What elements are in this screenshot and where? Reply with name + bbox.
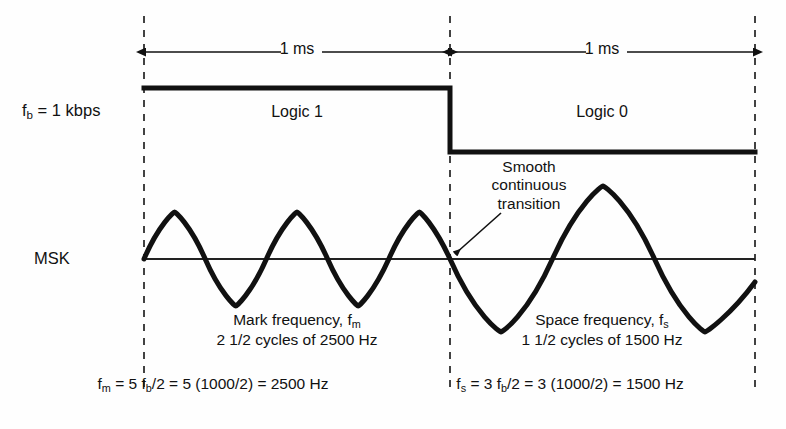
mark-frequency-caption: Mark frequency, fm 2 1/2 cycles of 2500 …	[216, 311, 377, 349]
space-frequency-caption: Space frequency, fs 1 1/2 cycles of 1500…	[521, 311, 682, 349]
space-caption-text: Space frequency, f	[535, 311, 663, 328]
mark-caption-subscript: m	[352, 318, 361, 330]
msk-row-label: MSK	[34, 249, 70, 268]
transition-leader-arrow	[455, 213, 501, 254]
binary-signal-row-label: fb = 1 kbps	[22, 101, 100, 123]
mark-equation-rest: /2 = 5 (1000/2) = 2500 Hz	[152, 375, 329, 392]
smooth-transition-line-3: transition	[492, 195, 567, 213]
space-caption-line-1: Space frequency, fs	[521, 311, 682, 331]
msk-waveform-figure: fb = 1 kbps MSK 1 ms 1 ms Logic 1 Logic …	[0, 0, 786, 429]
timing-label-left: 1 ms	[280, 40, 315, 59]
space-caption-line-2: 1 1/2 cycles of 1500 Hz	[521, 331, 682, 349]
mark-caption-line-1: Mark frequency, fm	[216, 311, 377, 331]
smooth-transition-annotation: Smooth continuous transition	[492, 158, 567, 213]
space-caption-subscript: s	[663, 318, 668, 330]
space-equation-mid: = 3 f	[466, 375, 501, 392]
timing-label-right: 1 ms	[585, 40, 620, 59]
bit-label-logic-0: Logic 0	[576, 103, 628, 122]
figure-graphics	[0, 0, 786, 429]
bit-label-logic-1: Logic 1	[271, 103, 323, 122]
binary-data-waveform	[144, 88, 755, 152]
mark-equation-lhs-subscript: m	[102, 382, 111, 394]
smooth-transition-line-1: Smooth	[492, 158, 567, 176]
space-equation-rest: /2 = 3 (1000/2) = 1500 Hz	[507, 375, 684, 392]
space-frequency-equation: fs = 3 fb/2 = 3 (1000/2) = 1500 Hz	[456, 375, 683, 395]
mark-equation-mid: = 5 f	[111, 375, 146, 392]
mark-frequency-equation: fm = 5 fb/2 = 5 (1000/2) = 2500 Hz	[98, 375, 329, 395]
mark-caption-text: Mark frequency, f	[233, 311, 352, 328]
binary-signal-label-rest: = 1 kbps	[33, 101, 100, 119]
mark-caption-line-2: 2 1/2 cycles of 2500 Hz	[216, 331, 377, 349]
smooth-transition-line-2: continuous	[492, 176, 567, 194]
